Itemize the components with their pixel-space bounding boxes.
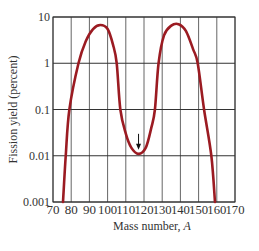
x-tick-label: 100 [98,203,117,217]
x-tick-label: 110 [116,203,135,217]
x-tick-label: 80 [65,203,78,217]
grid-lines [53,17,235,202]
fission-yield-curve [63,24,215,202]
x-tick-label: 130 [153,203,172,217]
y-tick-label: 0.01 [29,149,50,163]
x-tick-label: 140 [171,203,190,217]
x-axis-label-variable: A [183,219,192,233]
x-axis-label: Mass number, A [113,219,192,233]
x-axis-tick-labels: 708090100110120130140150160170 [47,203,245,217]
fission-yield-chart: 0.0010.010.1110 708090100110120130140150… [0,0,259,251]
arrow-head-icon [136,144,141,150]
y-axis-tick-labels: 0.0010.010.1110 [23,10,50,209]
x-axis-label-main: Mass number, [113,219,184,233]
y-tick-label: 1 [44,56,50,70]
y-tick-label: 0.1 [35,103,50,117]
y-tick-label: 10 [38,10,50,24]
x-tick-label: 160 [207,203,226,217]
x-tick-label: 150 [189,203,208,217]
x-tick-label: 170 [226,203,245,217]
x-tick-label: 120 [135,203,154,217]
x-tick-label: 90 [83,203,96,217]
y-axis-label: Fission yield (percent) [6,56,20,164]
minimum-arrow-annotation [136,134,141,150]
x-tick-label: 70 [47,203,60,217]
